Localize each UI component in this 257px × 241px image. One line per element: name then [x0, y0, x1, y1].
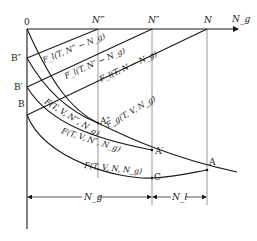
- label-cg: F_g(T, V, N_g): [104, 94, 158, 130]
- point-b2: B′: [14, 82, 23, 92]
- point-a: A: [208, 157, 216, 167]
- origin-label: 0: [24, 17, 30, 27]
- point-b3: B″: [11, 53, 22, 63]
- tick-n: N: [203, 15, 213, 25]
- point-a2: A′: [154, 146, 164, 156]
- tick-n3: N‴: [91, 15, 105, 25]
- point-c: C: [154, 172, 161, 182]
- x-axis-label: N_g: [231, 14, 250, 25]
- point-b: B: [18, 99, 25, 109]
- dim-nl: N_l: [171, 192, 187, 203]
- dim-ng: N_g: [83, 192, 102, 203]
- tick-n2: N″: [147, 15, 160, 25]
- phase-equilibrium-diagram: 0 N‴ N″ N N_g B″ B′ B A″ A′ A C F_l(T, N…: [0, 0, 257, 241]
